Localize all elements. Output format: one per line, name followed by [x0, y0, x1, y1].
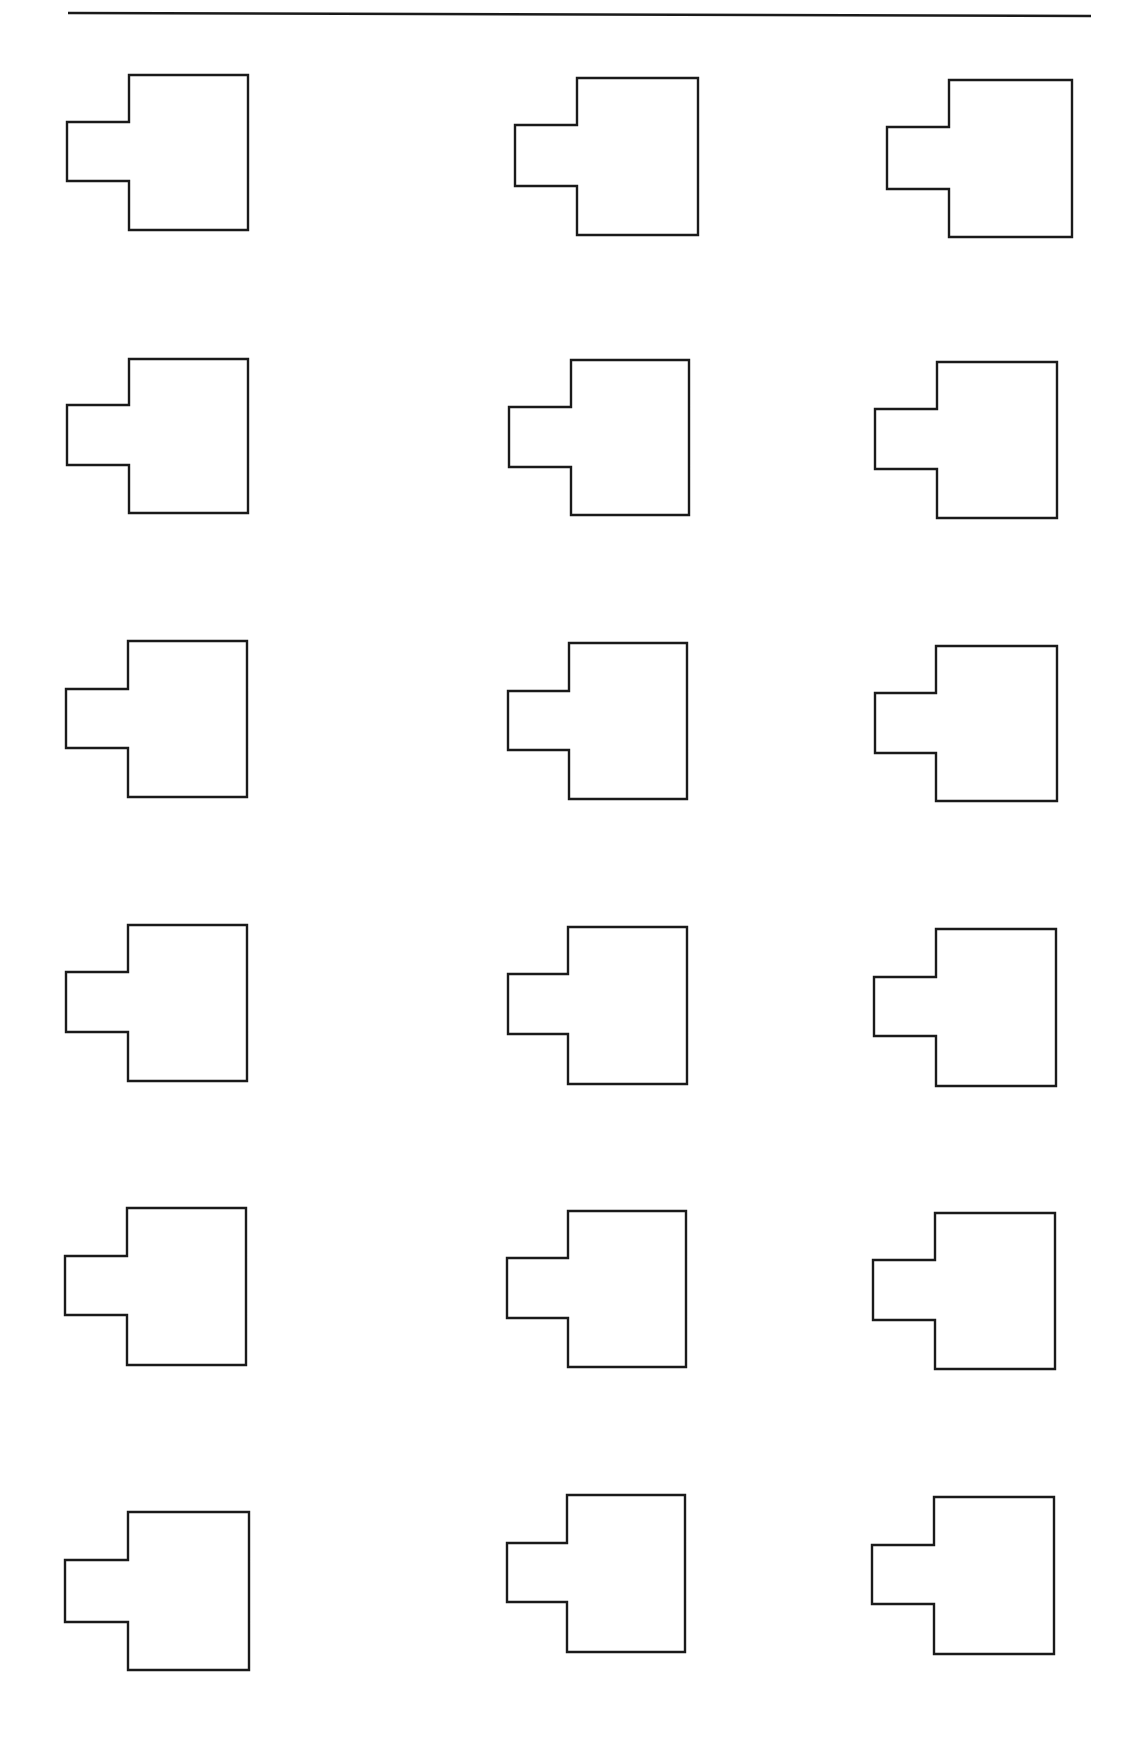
top-rule-line: [68, 13, 1091, 16]
t-shape-r6-c1: [65, 1512, 249, 1670]
t-shape-r3-c1: [66, 641, 247, 797]
t-shape-r3-c2: [508, 643, 687, 799]
t-shape-r3-c3: [875, 646, 1057, 801]
t-shape-r6-c3: [872, 1497, 1054, 1654]
t-shape-r2-c2: [509, 360, 689, 515]
t-shape-r1-c1: [67, 75, 248, 230]
t-shape-r6-c2: [507, 1495, 685, 1652]
t-shape-r4-c2: [508, 927, 687, 1084]
t-shape-r2-c1: [67, 359, 248, 513]
t-shape-r4-c3: [874, 929, 1056, 1086]
t-shape-r4-c1: [66, 925, 247, 1081]
t-shape-r1-c2: [515, 78, 698, 235]
t-shape-r5-c2: [507, 1211, 686, 1367]
shape-grid: [65, 75, 1072, 1670]
t-shape-r5-c1: [65, 1208, 246, 1365]
t-shape-r2-c3: [875, 362, 1057, 518]
t-shape-r1-c3: [887, 80, 1072, 237]
t-shape-r5-c3: [873, 1213, 1055, 1369]
diagram-canvas: [0, 0, 1130, 1752]
